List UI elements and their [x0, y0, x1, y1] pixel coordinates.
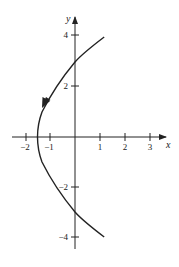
x-tick-label: 2 [123, 142, 128, 152]
y-axis-label: y [65, 13, 71, 24]
x-tick-label: 3 [148, 142, 153, 152]
x-tick-label: 1 [98, 142, 103, 152]
y-tick-label: 4 [64, 30, 69, 40]
x-axis-label: x [165, 139, 171, 150]
parametric-curve-chart: −2 −1 1 2 3 4 2 −2 −4 x y [0, 0, 179, 267]
y-tick-label: −2 [58, 182, 68, 192]
y-tick-label: 2 [64, 81, 69, 91]
x-tick-label: −2 [20, 142, 30, 152]
x-tick-label: −1 [44, 142, 54, 152]
y-tick-label: −4 [58, 232, 68, 242]
